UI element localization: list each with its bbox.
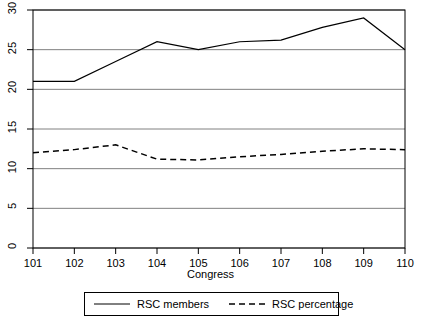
chart-container: 051015202530 101102103104105106107108109…	[0, 0, 421, 322]
y-tick-label: 0	[6, 234, 18, 258]
y-tick-label: 10	[6, 155, 18, 179]
legend-label-rsc-members: RSC members	[137, 298, 209, 310]
x-axis-title: Congress	[0, 268, 421, 280]
series-line-rsc-percentage	[33, 145, 405, 160]
y-tick-label: 30	[6, 0, 18, 20]
legend-key-dashed-line	[229, 299, 265, 309]
y-tick-label: 15	[6, 115, 18, 139]
legend-item-rsc-percentage: RSC percentage	[229, 293, 353, 315]
legend-key-solid-line	[94, 299, 130, 309]
y-tick-label: 20	[6, 75, 18, 99]
y-tick-label: 5	[6, 194, 18, 218]
legend-item-rsc-members: RSC members	[94, 293, 209, 315]
y-tick-label: 25	[6, 36, 18, 60]
legend-label-rsc-percentage: RSC percentage	[272, 298, 353, 310]
chart-legend: RSC members RSC percentage	[84, 292, 339, 316]
